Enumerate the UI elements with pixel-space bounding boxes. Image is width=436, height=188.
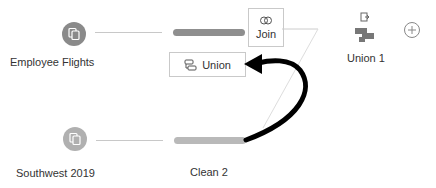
drag-arrow <box>0 0 436 188</box>
